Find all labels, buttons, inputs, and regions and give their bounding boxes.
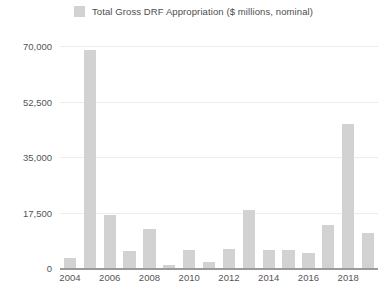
y-axis-tick-label: 70,000 [0,41,52,52]
bar [163,265,175,268]
chart-legend: Total Gross DRF Appropriation ($ million… [0,6,387,17]
bar [362,233,374,268]
x-axis: 20042006200820102012201420162018 [60,272,378,292]
x-axis-tick-label: 2016 [298,272,319,283]
bar [223,249,235,268]
y-axis-tick-label: 35,000 [0,152,52,163]
bar [143,229,155,268]
legend-swatch-icon [74,6,85,17]
x-axis-line [60,268,378,270]
x-axis-tick-label: 2018 [338,272,359,283]
bar [302,253,314,268]
legend-label: Total Gross DRF Appropriation ($ million… [92,6,313,17]
bar [342,124,354,268]
bar [243,210,255,268]
bar [203,262,215,268]
y-axis-tick-label: 52,500 [0,96,52,107]
bar [64,258,76,268]
bar [282,250,294,268]
y-axis-tick-label: 17,500 [0,207,52,218]
bar [263,250,275,268]
x-axis-tick-label: 2004 [59,272,80,283]
x-axis-tick-label: 2014 [258,272,279,283]
x-axis-tick-label: 2008 [139,272,160,283]
x-axis-tick-label: 2006 [99,272,120,283]
y-axis-tick-label: 0 [0,263,52,274]
bar [322,225,334,268]
x-axis-tick-label: 2012 [218,272,239,283]
bar [183,250,195,268]
bar [123,251,135,268]
x-axis-tick-label: 2010 [179,272,200,283]
bar-series [60,46,378,268]
bar-chart: Total Gross DRF Appropriation ($ million… [0,0,387,300]
bar [84,50,96,268]
bar [104,215,116,268]
